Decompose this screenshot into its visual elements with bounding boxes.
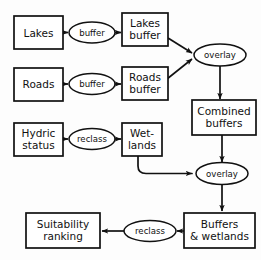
node-combined-buffers[interactable]: Combined buffers	[192, 100, 256, 135]
node-combined-buffers-label-1: Combined	[197, 105, 250, 117]
node-suitability-ranking-label-1: Suitability	[37, 218, 90, 230]
node-wetlands-label-2: lands	[128, 139, 156, 151]
diagram-canvas: Lakes Lakes buffer Roads Roads buffer Co…	[0, 0, 261, 260]
process-buffer-lakes-label: buffer	[79, 28, 105, 38]
process-buffer-roads-label: buffer	[79, 79, 105, 89]
process-overlay-bottom[interactable]: overlay	[196, 163, 248, 185]
node-roads[interactable]: Roads	[14, 68, 63, 101]
node-suitability-ranking-label-2: ranking	[43, 230, 83, 242]
node-hydric-status-label-2: status	[22, 139, 54, 151]
process-overlay-bottom-label: overlay	[206, 169, 238, 179]
node-buffers-wetlands-label-1: Buffers	[201, 218, 238, 230]
node-hydric-status[interactable]: Hydric status	[14, 123, 63, 156]
edge-wetlands-to-overlay	[138, 155, 192, 174]
process-overlay-top[interactable]: overlay	[194, 44, 246, 66]
workflow-diagram: Lakes Lakes buffer Roads Roads buffer Co…	[0, 0, 261, 260]
node-lakes[interactable]: Lakes	[14, 16, 63, 49]
node-buffers-wetlands[interactable]: Buffers & wetlands	[184, 213, 255, 248]
node-wetlands[interactable]: Wet- lands	[122, 123, 162, 156]
node-wetlands-label-1: Wet-	[130, 127, 154, 139]
node-lakes-buffer-label-1: Lakes	[130, 17, 160, 29]
process-reclass-hydric-label: reclass	[77, 134, 107, 144]
node-roads-buffer[interactable]: Roads buffer	[122, 67, 168, 100]
edge-lakes-buffer-to-overlay	[168, 38, 192, 53]
node-roads-label: Roads	[23, 78, 55, 90]
node-suitability-ranking[interactable]: Suitability ranking	[26, 213, 100, 248]
node-combined-buffers-label-2: buffers	[206, 117, 243, 129]
node-lakes-buffer-label-2: buffer	[129, 29, 161, 41]
edge-roads-buffer-to-overlay	[167, 59, 192, 79]
node-lakes-buffer[interactable]: Lakes buffer	[122, 13, 168, 46]
process-overlay-top-label: overlay	[204, 50, 236, 60]
node-roads-buffer-label-1: Roads	[129, 71, 161, 83]
node-buffers-wetlands-label-2: & wetlands	[190, 230, 249, 242]
process-reclass-final[interactable]: reclass	[124, 221, 176, 242]
process-buffer-roads[interactable]: buffer	[69, 74, 115, 95]
node-lakes-label: Lakes	[24, 27, 54, 39]
process-reclass-final-label: reclass	[135, 226, 165, 236]
process-reclass-hydric[interactable]: reclass	[69, 129, 115, 150]
node-hydric-status-label-1: Hydric	[22, 127, 56, 139]
node-roads-buffer-label-2: buffer	[129, 83, 161, 95]
process-buffer-lakes[interactable]: buffer	[69, 22, 115, 43]
